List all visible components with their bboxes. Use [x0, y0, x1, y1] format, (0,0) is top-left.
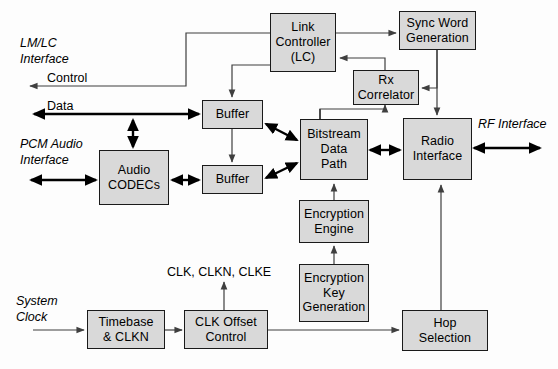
block-diagram-canvas: Link Controller (LC) Sync Word Generatio… [0, 0, 558, 369]
block-rx-correlator[interactable]: Rx Correlator [353, 70, 419, 105]
label-pcm-audio-interface: PCM Audio Interface [20, 137, 83, 168]
wire-rx-correlator-to-lc [340, 58, 385, 70]
block-encryption-engine[interactable]: Encryption Engine [299, 200, 369, 243]
block-hop-selection[interactable]: Hop Selection [402, 310, 488, 351]
wire-buffer-bottom-to-bitstream [266, 163, 297, 178]
wire-buffer-top-to-bitstream [266, 124, 297, 140]
label-system-clock: System Clock [16, 294, 58, 325]
block-buffer-top[interactable]: Buffer [202, 100, 263, 129]
block-bitstream-data-path[interactable]: Bitstream Data Path [300, 119, 368, 180]
label-lm-lc-interface: LM/LC Interface [20, 36, 69, 67]
block-sync-word-generation[interactable]: Sync Word Generation [399, 11, 476, 50]
block-link-controller[interactable]: Link Controller (LC) [270, 13, 336, 72]
block-encryption-key-generation[interactable]: Encryption Key Generation [299, 264, 369, 322]
block-radio-interface[interactable]: Radio Interface [403, 118, 472, 180]
label-control-signal: Control [47, 71, 87, 86]
block-buffer-bottom[interactable]: Buffer [202, 165, 263, 194]
label-data-signal: Data [47, 99, 73, 114]
block-audio-codecs[interactable]: Audio CODECs [99, 150, 169, 205]
block-timebase-clkn[interactable]: Timebase & CLKN [87, 310, 165, 349]
wire-bitstream-riser [320, 109, 385, 119]
block-clk-offset-control[interactable]: CLK Offset Control [184, 310, 268, 349]
label-clk-bus: CLK, CLKN, CLKE [167, 265, 271, 280]
wire-sync-word-to-rx-correlator [422, 50, 437, 88]
label-rf-interface: RF Interface [478, 117, 547, 133]
